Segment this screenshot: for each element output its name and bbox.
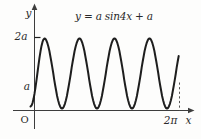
a-tick-label: a <box>24 80 30 92</box>
x-axis-label: x <box>186 114 192 126</box>
two-pi-tick-label: 2π <box>163 114 179 126</box>
origin-label: O <box>20 114 28 125</box>
equation-title: y = a sin4x + a <box>74 10 153 22</box>
sine-curve <box>31 39 179 109</box>
x-axis-arrow-icon <box>188 108 195 114</box>
plot-canvas: y = a sin4x + a y 2a a O 2π x <box>0 0 201 139</box>
sine-plot-figure: y = a sin4x + a y 2a a O 2π x <box>0 0 201 139</box>
two-a-tick-label: 2a <box>14 30 28 42</box>
y-axis-label: y <box>25 7 33 19</box>
y-axis-arrow-icon <box>32 4 38 11</box>
